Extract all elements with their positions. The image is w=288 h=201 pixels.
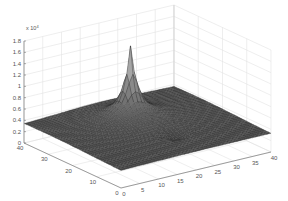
tick-label: 0 [115, 190, 119, 196]
tick-label: 35 [252, 160, 259, 166]
tick-label: 0.6 [13, 106, 22, 112]
tick-label: 1.6 [13, 49, 22, 55]
tick-label: 10 [89, 179, 96, 185]
tick-label: 0.8 [13, 95, 22, 101]
tick-label: 1.8 [13, 38, 22, 44]
tick-label: 1 [18, 83, 22, 89]
surface-plot: 00.20.40.60.811.21.41.61.805101520253035… [0, 0, 288, 201]
tick-label: 0.2 [13, 129, 22, 135]
tick-label: 0 [122, 191, 126, 197]
tick-label: 1.2 [13, 72, 22, 78]
tick-label: 25 [214, 169, 221, 175]
tick-label: 40 [271, 155, 278, 161]
tick-label: 10 [158, 182, 165, 188]
tick-label: 30 [233, 164, 240, 170]
tick-label: 30 [41, 156, 48, 162]
z-multiplier: x 104 [26, 24, 39, 32]
tick-label: 5 [141, 187, 145, 193]
tick-label: 1.4 [13, 61, 22, 67]
tick-label: 20 [196, 173, 203, 179]
surface-mesh [24, 46, 271, 171]
tick-label: 40 [17, 145, 24, 151]
tick-label: 20 [65, 168, 72, 174]
tick-label: 0.4 [13, 117, 22, 123]
tick-label: 15 [177, 178, 184, 184]
